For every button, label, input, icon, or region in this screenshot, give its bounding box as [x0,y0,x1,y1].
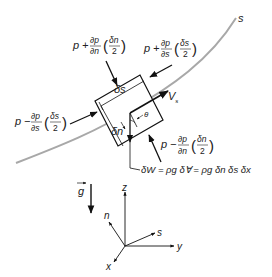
svg-text:δn: δn [197,134,207,144]
svg-text:): ) [62,114,67,131]
svg-text:∂n: ∂n [178,146,187,156]
svg-text:2: 2 [200,146,205,156]
svg-text:): ) [209,137,214,154]
bottom-normal-force-label: p − ∂p ∂n ( δn 2 ) [160,134,214,156]
right-stream-force-label: p + ∂p ∂s ( δs 2 ) [143,38,197,59]
velocity-label: Vs [168,90,178,104]
left-stream-force-arrow [70,112,97,124]
streamline-label: s [238,12,244,24]
ds-label: δs [114,83,126,95]
fluid-element [95,75,163,146]
svg-text:+: + [153,42,160,54]
svg-text:δs: δs [50,111,60,121]
svg-text:(: ( [174,40,179,57]
svg-text:∂s: ∂s [31,123,40,133]
axis-x-label: x [105,261,112,272]
svg-text:δs: δs [180,38,190,48]
left-stream-force-label: p − ∂p ∂s ( δs 2 ) [14,111,67,133]
svg-text:2: 2 [183,49,188,59]
svg-text:p: p [160,138,167,150]
svg-text:p: p [14,115,21,127]
right-stream-force-arrow [150,65,172,77]
svg-text:(: ( [44,114,49,131]
weight-equation: δW = ρg δ∀ = ρg δn δs δx [141,164,252,175]
top-normal-force-label: p + ∂p ∂n ( δn 2 ) [72,35,126,56]
axis-s-label: s [157,227,162,238]
svg-text:δn: δn [109,35,119,45]
axis-z-label: z [121,182,127,193]
coordinate-axes [109,192,174,262]
svg-text:p: p [72,39,79,51]
svg-text:∂p: ∂p [90,35,99,45]
svg-text:): ) [192,40,197,57]
svg-text:−: − [24,115,31,127]
axis-y-label: y [176,241,183,252]
top-normal-force-arrow [106,61,117,85]
svg-text:(: ( [103,37,108,54]
svg-text:−: − [170,138,177,150]
svg-text:+: + [82,39,89,51]
svg-text:2: 2 [112,46,117,56]
svg-text:∂p: ∂p [178,134,187,144]
svg-text:g: g [78,185,85,197]
fluid-element-diagram: s δs δn θ Vs δW = ρg δ∀ = ρg δn δs δx p … [0,0,272,277]
axis-n-label: n [104,210,110,221]
svg-text:2: 2 [53,123,58,133]
svg-text:∂n: ∂n [90,46,99,56]
theta-label: θ [144,110,149,119]
dn-label: δn [111,125,123,137]
bottom-normal-force-arrow [149,135,161,162]
svg-text:): ) [121,37,126,54]
gravity-vector: g [77,183,91,213]
svg-text:∂s: ∂s [161,49,170,59]
svg-text:∂p: ∂p [161,38,170,48]
svg-text:∂p: ∂p [31,111,40,121]
svg-text:(: ( [191,137,196,154]
svg-text:p: p [143,42,150,54]
